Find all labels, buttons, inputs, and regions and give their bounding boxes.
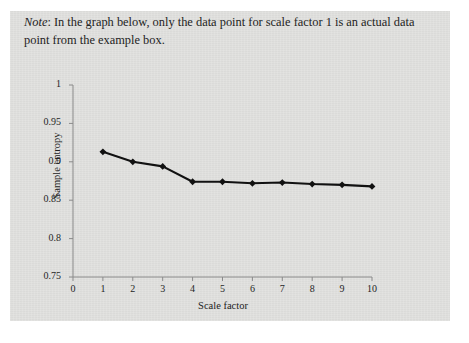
x-axis-tick-label: 1 (91, 283, 115, 294)
x-axis-tick-label: 7 (270, 283, 294, 294)
y-axis-tick-label: 0.8 (21, 232, 61, 243)
data-point-marker (309, 181, 316, 188)
y-axis-title: Sample entropy (51, 126, 62, 206)
data-point-marker (129, 158, 136, 165)
data-point-marker (369, 183, 376, 190)
x-axis-tick-label: 4 (181, 283, 205, 294)
data-series-line (103, 152, 372, 187)
y-axis-tick-label: 1 (21, 78, 61, 89)
x-axis-tick-label: 2 (121, 283, 145, 294)
sample-entropy-chart: 0.750.80.850.90.951 012345678910 Sample … (0, 0, 469, 343)
x-axis-tick-label: 9 (330, 283, 354, 294)
y-axis-ticks (69, 85, 73, 277)
x-axis-tick-label: 3 (151, 283, 175, 294)
x-axis-tick-label: 10 (360, 283, 384, 294)
x-axis-tick-label: 5 (211, 283, 235, 294)
data-point-marker (219, 178, 226, 185)
x-axis-tick-label: 6 (240, 283, 264, 294)
data-point-marker (339, 181, 346, 188)
x-axis-tick-label: 8 (300, 283, 324, 294)
x-axis-ticks (73, 277, 372, 281)
data-point-marker (249, 180, 256, 187)
data-point-marker (100, 148, 107, 155)
y-axis-tick-label: 0.75 (21, 270, 61, 281)
x-axis-tick-label: 0 (61, 283, 85, 294)
data-point-marker (279, 179, 286, 186)
x-axis-title: Scale factor (73, 300, 373, 311)
